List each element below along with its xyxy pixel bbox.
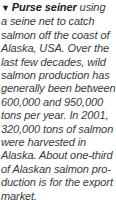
caption-line-1: ▼Purse seiner using — [1, 1, 114, 15]
caption-line: were harvested in — [1, 136, 114, 149]
caption-line: Alaska, USA. Over the — [1, 42, 114, 55]
caption-line: a seine net to catch — [1, 15, 114, 28]
caption-line: 320,000 tons of salmon — [1, 123, 114, 136]
caption-lead: Purse seiner — [12, 1, 77, 13]
caption-line: salmon off the coast of — [1, 29, 114, 42]
caption-line: tons per year. In 2001, — [1, 109, 114, 122]
caption-line: last few decades, wild — [1, 56, 114, 69]
caption-line: Alaska. About one-third — [1, 149, 114, 162]
caption-line: of Alaskan salmon pro- — [1, 163, 114, 176]
photo-caption: ▼Purse seiner using a seine net to catch… — [1, 1, 114, 188]
caption-line: generally been between — [1, 82, 114, 95]
caption-line: 600,000 and 950,000 — [1, 96, 114, 109]
triangle-marker-icon: ▼ — [1, 3, 10, 13]
caption-line: salmon production has — [1, 69, 114, 82]
caption-line: duction is for the export — [1, 176, 114, 188]
